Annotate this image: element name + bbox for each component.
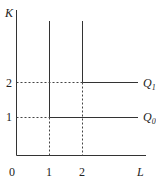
y-tick-1: 1: [6, 111, 12, 123]
x-tick-1: 1: [46, 166, 52, 178]
y-tick-2: 2: [6, 77, 12, 89]
isoquant-diagram: [0, 0, 156, 187]
q0-label: Q0: [143, 111, 156, 126]
q1-label: Q1: [143, 77, 156, 92]
origin-label: 0: [9, 166, 15, 178]
x-tick-2: 2: [79, 166, 85, 178]
x-axis-label: L: [137, 166, 144, 178]
y-axis-label: K: [5, 7, 13, 19]
